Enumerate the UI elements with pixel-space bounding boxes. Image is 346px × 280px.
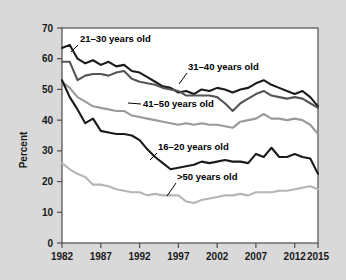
x-tick-label: 1997	[167, 251, 190, 262]
y-tick-label: 0	[47, 238, 53, 249]
annotation-31-40: 31–40 years old	[188, 61, 259, 72]
x-tick-label: 1992	[128, 251, 151, 262]
annotation-16-20: 16–20 years old	[158, 141, 229, 152]
annotation-41-50: 41–50 years old	[143, 98, 214, 109]
x-tick-label: 1982	[51, 251, 74, 262]
x-tick-label: 2015	[307, 251, 330, 262]
y-tick-label: 30	[42, 145, 54, 156]
x-tick-label: 2002	[206, 251, 229, 262]
annotation-gt50: >50 years old	[177, 171, 238, 182]
x-tick-label: 1987	[90, 251, 113, 262]
line-chart: 010203040506070 198219871992199720022007…	[0, 0, 346, 280]
chart-figure: 010203040506070 198219871992199720022007…	[0, 0, 346, 280]
y-tick-label: 50	[42, 84, 54, 95]
x-tick-label: 2012	[284, 251, 307, 262]
y-tick-label: 40	[42, 115, 54, 126]
y-axis-title: Percent	[18, 131, 29, 168]
y-tick-label: 10	[42, 207, 54, 218]
y-tick-label: 60	[42, 53, 54, 64]
y-tick-label: 70	[42, 23, 54, 34]
annotation-21-30: 21–30 years old	[80, 33, 151, 44]
y-tick-label: 20	[42, 176, 54, 187]
x-tick-label: 2007	[245, 251, 268, 262]
